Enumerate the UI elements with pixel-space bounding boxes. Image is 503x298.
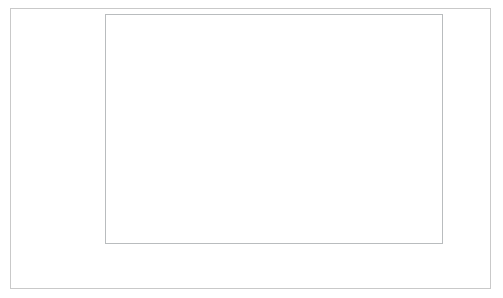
data-layer	[106, 15, 442, 243]
plot-area	[105, 14, 443, 244]
chart-figure	[0, 0, 503, 298]
